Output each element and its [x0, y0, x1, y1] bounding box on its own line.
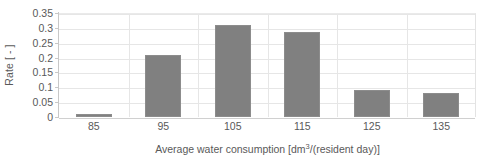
x-tick-label: 95 [157, 120, 169, 132]
y-tick-label: 0.05 [33, 96, 53, 108]
bar-105[interactable] [215, 25, 251, 117]
y-tick-mark [55, 117, 59, 118]
gridline-horizontal [59, 118, 475, 119]
x-tick-label: 85 [88, 120, 100, 132]
y-tick-mark [55, 72, 59, 73]
bar-115[interactable] [284, 32, 320, 117]
y-tick-mark [55, 43, 59, 44]
y-tick-mark [55, 87, 59, 88]
gridline-horizontal [59, 14, 475, 15]
bar-125[interactable] [354, 90, 390, 117]
y-tick-mark [55, 13, 59, 14]
gridline-horizontal [59, 88, 475, 89]
y-axis-tick-labels: 00.050.10.150.20.250.30.35 [18, 13, 56, 117]
x-axis-tick-labels: 8595105115125135 [59, 120, 476, 136]
gridline-horizontal [59, 44, 475, 45]
gridline-vertical [407, 14, 408, 117]
y-tick-mark [55, 58, 59, 59]
x-axis-title: Average water consumption [dm3/(resident… [59, 143, 476, 155]
y-tick-label: 0.2 [38, 52, 53, 64]
y-tick-label: 0.15 [33, 66, 53, 78]
y-tick-label: 0.3 [38, 22, 53, 34]
gridline-vertical [129, 14, 130, 117]
x-axis-title-after: /(resident day)] [310, 143, 380, 155]
x-tick-label: 105 [224, 120, 242, 132]
x-axis-title-before: Average water consumption [dm [155, 143, 305, 155]
gridline-vertical [198, 14, 199, 117]
bar-chart-figure: Rate [ - ] 00.050.10.150.20.250.30.35 85… [0, 0, 492, 167]
gridline-horizontal [59, 59, 475, 60]
bar-95[interactable] [145, 55, 181, 117]
plot-area [59, 13, 476, 117]
y-axis-title: Rate [ - ] [0, 0, 18, 130]
bar-85[interactable] [76, 114, 112, 117]
y-tick-label: 0.1 [38, 81, 53, 93]
y-tick-mark [55, 28, 59, 29]
gridline-vertical [268, 14, 269, 117]
gridline-horizontal [59, 73, 475, 74]
x-tick-label: 115 [294, 120, 311, 132]
y-tick-label: 0 [47, 111, 53, 123]
y-axis-title-text: Rate [ - ] [3, 44, 15, 85]
gridline-horizontal [59, 29, 475, 30]
bar-135[interactable] [423, 93, 459, 117]
y-tick-mark [55, 102, 59, 103]
gridline-horizontal [59, 103, 475, 104]
y-tick-label: 0.25 [33, 37, 53, 49]
x-tick-label: 125 [363, 120, 381, 132]
x-tick-label: 135 [432, 120, 450, 132]
gridline-vertical [337, 14, 338, 117]
y-tick-label: 0.35 [33, 7, 53, 19]
